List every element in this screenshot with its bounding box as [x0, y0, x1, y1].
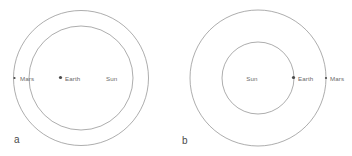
panel-b-mars-dot [325, 77, 327, 79]
panel-b-sun-label: Sun [246, 75, 258, 82]
panel-a-earth-dot [59, 76, 62, 79]
panel-a-sun-label: Sun [106, 75, 118, 82]
panel-a-caption-label: a [14, 134, 20, 145]
panel-b-earth-label: Earth [298, 75, 314, 82]
panel-a: Mars Earth Sun a [13, 11, 148, 146]
panel-a-mars-dot [13, 77, 15, 79]
orbit-diagram-canvas: Mars Earth Sun a Sun Earth Mars b [0, 0, 352, 156]
panel-b: Sun Earth Mars b [182, 10, 344, 146]
panel-b-caption-label: b [182, 135, 188, 146]
panel-b-earth-dot [292, 76, 295, 79]
orbit-diagram-figure: Mars Earth Sun a Sun Earth Mars b [0, 0, 352, 156]
panel-a-earth-orbit [29, 26, 133, 130]
panel-b-mars-label: Mars [330, 75, 344, 82]
panel-a-mars-label: Mars [20, 75, 34, 82]
panel-b-earth-orbit [222, 42, 294, 114]
panel-a-earth-label: Earth [65, 75, 81, 82]
